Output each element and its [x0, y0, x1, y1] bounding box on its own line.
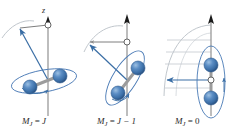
panel-3-value: 0: [195, 116, 200, 126]
panel-2-equals: =: [107, 116, 117, 126]
atom-sphere-panel-1-b: [53, 69, 67, 83]
open-circle-marker-panel-3: [208, 77, 214, 83]
atom-sphere-panel-3-a: [204, 58, 218, 72]
rotation-vector-model-figure: z MJ = J MJ = J − 1: [0, 0, 241, 134]
atom-sphere-panel-1-a: [23, 80, 37, 94]
panel-label-mj-equals-0: MJ = 0: [174, 116, 200, 127]
figure-canvas: z MJ = J MJ = J − 1: [0, 0, 241, 134]
atom-sphere-panel-2-b: [131, 61, 145, 75]
open-circle-marker-panel-1: [45, 22, 51, 28]
panel-label-mj-equals-j-minus-1: MJ = J − 1: [96, 116, 136, 127]
open-circle-marker-panel-2: [124, 39, 130, 45]
panel-3-equals: =: [185, 116, 195, 126]
atom-sphere-panel-2-a: [111, 86, 125, 100]
atom-sphere-panel-3-b: [204, 91, 218, 105]
panel-2-value: J − 1: [117, 116, 136, 126]
panel-label-mj-equals-j: MJ = J: [21, 116, 47, 127]
panel-1-equals: =: [32, 116, 42, 126]
